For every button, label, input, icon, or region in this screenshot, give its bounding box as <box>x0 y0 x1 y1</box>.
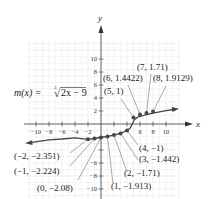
x-axis-arrow-icon <box>185 122 193 127</box>
annotation-point-7: (7, 1.71) <box>137 62 168 72</box>
function-graph: x y −10 −8 −6 −4 −2 6 8 10 10 8 6 4 2 −6… <box>0 0 217 199</box>
annotation-point-1: (1, −1.913) <box>111 181 151 191</box>
x-tick-label: −10 <box>31 128 41 135</box>
x-tick-label: −8 <box>46 128 53 135</box>
annotation-point-8: (8, 1.9129) <box>153 73 193 83</box>
x-tick-label: −6 <box>59 128 67 135</box>
curve-left-arrow-icon <box>25 140 33 145</box>
function-label-lhs: m(x) = <box>14 87 42 99</box>
annotation-point-0: (0, −2.08) <box>37 183 73 193</box>
function-label: m(x) = 3 √ 2x − 9 <box>14 85 87 99</box>
annotation-point-m1: (−1, −2.224) <box>14 166 59 176</box>
function-label-radicand: 2x − 9 <box>61 87 87 98</box>
y-tick-label: 10 <box>91 55 98 62</box>
annotation-point-m2: (−2, −2.351) <box>14 151 59 161</box>
x-tick-labels: −10 −8 −6 −4 −2 6 8 10 <box>31 128 169 135</box>
annotation-point-6: (6, 1.4422) <box>103 73 143 83</box>
annotation-point-3: (3, −1.442) <box>139 154 179 164</box>
y-tick-label: −8 <box>90 172 97 179</box>
x-tick-label: 6 <box>138 128 142 135</box>
x-tick-label: −4 <box>72 128 80 135</box>
annotation-point-4: (4, −1) <box>139 143 164 153</box>
y-axis-arrow-icon <box>99 25 104 33</box>
y-tick-label: −6 <box>90 159 98 166</box>
y-tick-labels: 10 8 6 4 2 −6 −8 −10 <box>87 55 98 192</box>
x-tick-label: −2 <box>85 128 92 135</box>
y-tick-label: 8 <box>94 68 97 75</box>
y-tick-label: −10 <box>87 185 97 192</box>
annotation-point-2: (2, −1.71) <box>124 168 160 178</box>
x-tick-label: 8 <box>151 128 154 135</box>
curve-right-arrow-icon <box>172 107 179 112</box>
y-axis-label: y <box>97 13 102 23</box>
y-tick-label: 6 <box>94 81 98 88</box>
x-axis-label: x <box>195 119 200 129</box>
annotation-point-5: (5, 1) <box>104 86 124 96</box>
y-tick-label: 4 <box>94 94 98 101</box>
y-tick-label: 2 <box>94 107 97 114</box>
radical-sign: √ <box>54 87 61 99</box>
x-tick-label: 10 <box>163 128 170 135</box>
